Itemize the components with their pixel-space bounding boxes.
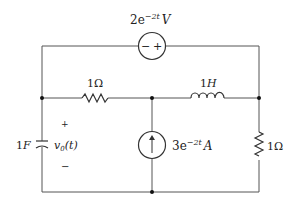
v0-plus: + [61,119,69,129]
svg-text:+: + [153,40,162,53]
resistor-top [82,94,108,102]
voltage-source: − + [139,33,166,60]
circuit-diagram: − + 2e−2tV 1Ω 1H 1F + v0(t) − 3e−2tA 1Ω [0,0,293,206]
voltage-source-label: 2e−2tV [130,12,172,27]
wire-top-right [166,46,259,98]
inductor-label: 1H [200,77,217,90]
current-source [139,132,166,159]
svg-text:−: − [141,40,150,53]
resistor-right [255,132,263,156]
capacitor-label: 1F [16,139,31,152]
v0-minus: − [61,161,69,172]
resistor-right-label: 1Ω [267,140,283,153]
current-source-label: 3e−2tA [172,138,213,153]
v0-label: v0(t) [54,139,78,153]
inductor [191,92,224,98]
resistor-top-label: 1Ω [87,77,103,90]
wire-top-left [42,46,138,98]
capacitor [36,141,48,148]
